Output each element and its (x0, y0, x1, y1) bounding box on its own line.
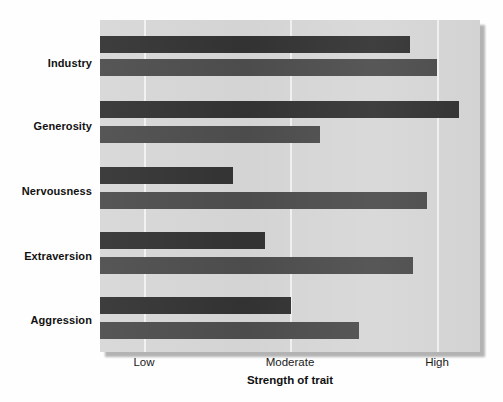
gridline-high (437, 20, 439, 352)
x-tick-label-moderate: Moderate (266, 356, 315, 368)
bar-chart-figure: IndustryGenerosityNervousnessExtraversio… (0, 0, 503, 402)
y-axis-label-extraversion: Extraversion (0, 250, 92, 262)
industry-bar-top (100, 36, 410, 53)
y-axis-label-nervousness: Nervousness (0, 185, 92, 197)
y-axis-label-industry: Industry (0, 57, 92, 69)
nervousness-bar-top (100, 167, 233, 184)
aggression-bar-bottom (100, 322, 359, 339)
y-axis-label-generosity: Generosity (0, 120, 92, 132)
y-axis-label-aggression: Aggression (0, 314, 92, 326)
nervousness-bar-bottom (100, 192, 427, 209)
extraversion-bar-bottom (100, 257, 413, 274)
generosity-bar-bottom (100, 126, 320, 143)
x-tick-label-high: High (425, 356, 449, 368)
x-axis-title: Strength of trait (247, 374, 333, 386)
industry-bar-bottom (100, 59, 437, 76)
y-axis-category-labels: IndustryGenerosityNervousnessExtraversio… (0, 0, 100, 402)
extraversion-bar-top (100, 232, 265, 249)
plot-area (100, 20, 480, 352)
x-tick-label-low: Low (133, 356, 154, 368)
aggression-bar-top (100, 297, 291, 314)
generosity-bar-top (100, 101, 459, 118)
